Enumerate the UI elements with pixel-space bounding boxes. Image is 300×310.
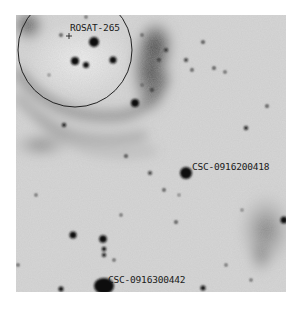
sky-field	[16, 15, 286, 292]
source-label-rosat-265: ROSAT-265	[70, 23, 120, 33]
source-label-csc-0916200418: CSC-0916200418	[192, 162, 269, 172]
sky-image: ROSAT-265 CSC-0916200418 CSC-0916300442	[16, 15, 286, 292]
source-label-csc-0916300442: CSC-0916300442	[108, 275, 185, 285]
